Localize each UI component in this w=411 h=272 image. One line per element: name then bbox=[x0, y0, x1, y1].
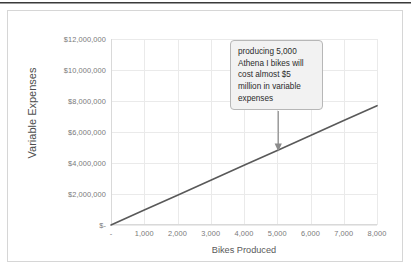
x-axis-tick-label: 1,000 bbox=[135, 229, 154, 238]
x-axis-tick-label: 4,000 bbox=[235, 229, 254, 238]
y-axis-tick-label: $4,000,000 bbox=[68, 159, 106, 168]
annotation-text-line: Athena I bikes will bbox=[238, 58, 316, 70]
annotation-text-line: million in variable bbox=[238, 81, 316, 93]
x-axis-tick-labels: -1,0002,0003,0004,0005,0006,0007,0008,00… bbox=[111, 229, 377, 243]
gridline-vertical bbox=[377, 39, 378, 225]
chart-page: Variable Expenses $-$2,000,000$4,000,000… bbox=[0, 0, 411, 272]
y-axis-tick-labels: $-$2,000,000$4,000,000$6,000,000$8,000,0… bbox=[42, 39, 106, 225]
x-axis-tick-label: - bbox=[110, 229, 113, 238]
x-axis-tick-label: 2,000 bbox=[168, 229, 187, 238]
gridline-horizontal bbox=[111, 225, 377, 226]
annotation-text-line: cost almost $5 bbox=[238, 69, 316, 81]
top-divider-light bbox=[0, 3, 411, 4]
chart-frame: Variable Expenses $-$2,000,000$4,000,000… bbox=[7, 10, 403, 262]
x-axis-tick-label: 5,000 bbox=[268, 229, 287, 238]
annotation-text-line: expenses bbox=[238, 93, 316, 105]
x-axis-tick-label: 7,000 bbox=[334, 229, 353, 238]
x-axis-tick-label: 6,000 bbox=[301, 229, 320, 238]
y-axis-tick-label: $6,000,000 bbox=[68, 128, 106, 137]
y-axis-title: Variable Expenses bbox=[26, 43, 38, 183]
y-axis-tick-label: $8,000,000 bbox=[68, 97, 106, 106]
annotation-text-line: producing 5,000 bbox=[238, 46, 316, 58]
x-axis-title: Bikes Produced bbox=[111, 245, 377, 255]
y-axis-tick-label: $10,000,000 bbox=[64, 66, 106, 75]
y-axis-tick-label: $2,000,000 bbox=[68, 190, 106, 199]
annotation-callout: producing 5,000Athena I bikes willcost a… bbox=[230, 40, 323, 110]
y-axis-tick-label: $12,000,000 bbox=[64, 35, 106, 44]
y-axis-tick-label: $- bbox=[99, 221, 106, 230]
x-axis-tick-label: 3,000 bbox=[201, 229, 220, 238]
x-axis-tick-label: 8,000 bbox=[368, 229, 387, 238]
